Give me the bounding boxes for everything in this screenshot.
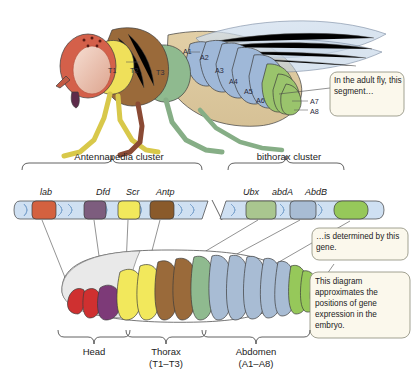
callout-adult-segment-text: In the adult fly, this segment… (334, 75, 402, 97)
region-label-abdomen: Abdomen (236, 346, 277, 357)
gene-label-abda: abdA (272, 187, 293, 197)
callout-diagram-note: This diagram approximates the positions … (310, 272, 410, 338)
region-sub-abdomen: (A1–A8) (239, 358, 274, 369)
callout-adult-segment: In the adult fly, this segment… (330, 72, 404, 116)
callout-determined-gene-text: …is determined by this gene. (316, 231, 406, 253)
fly-label-a3: A3 (215, 66, 224, 75)
gene-box-dfd (84, 201, 106, 219)
gene-label-lab: lab (40, 187, 52, 197)
fly-label-a7: A7 (310, 97, 319, 106)
cluster-label-bithorax: bithorax cluster (257, 151, 321, 162)
fly-label-a8: A8 (310, 107, 319, 116)
body-region-brackets (58, 330, 310, 344)
gene-label-abdb: AbdB (304, 187, 327, 197)
callout-determined-gene: …is determined by this gene. (312, 228, 408, 260)
gene-label-scr: Scr (126, 187, 141, 197)
fly-label-t1: T1 (108, 66, 116, 75)
gene-box-abdb (334, 201, 368, 219)
region-label-head: Head (83, 346, 106, 357)
callout-diagram-note-text: This diagram approximates the positions … (315, 276, 407, 331)
gene-box-scr (118, 201, 140, 219)
gene-box-ubx (246, 201, 276, 219)
gene-label-antp: Antp (155, 187, 175, 197)
gene-box-antp (150, 201, 174, 219)
chromosome-bar (14, 200, 384, 220)
fly-label-a1: A1 (183, 47, 192, 56)
gene-label-ubx: Ubx (243, 187, 260, 197)
region-label-thorax: Thorax (151, 346, 181, 357)
fly-eye (73, 46, 111, 94)
fly-label-t3: T3 (156, 68, 164, 77)
gene-label-dfd: Dfd (96, 187, 111, 197)
fly-label-t2: T2 (130, 66, 138, 75)
gene-box-abda (290, 201, 316, 219)
fly-label-a6: A6 (256, 96, 265, 105)
fly-label-a2: A2 (200, 53, 209, 62)
figure-canvas: T1 T2 T3 A1 A2 A3 A4 A5 A6 A7 A8 In the … (0, 0, 414, 380)
fly-proboscis (71, 92, 79, 108)
embryo (62, 250, 336, 322)
gene-box-lab (32, 201, 56, 219)
region-sub-thorax: (T1–T3) (149, 358, 183, 369)
fly-label-a5: A5 (244, 87, 253, 96)
cluster-label-antennapedia: Antennapedia cluster (74, 151, 163, 162)
fly-label-a4: A4 (229, 77, 238, 86)
